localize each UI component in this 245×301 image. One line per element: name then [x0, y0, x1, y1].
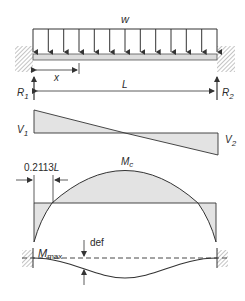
shear-negative-area	[125, 133, 218, 155]
beam	[33, 54, 217, 60]
distributed-load-arrows	[33, 29, 217, 52]
inflection-label: 0.2113L	[24, 162, 59, 173]
shear-right-label: V2	[225, 134, 237, 148]
x-label: x	[53, 72, 60, 83]
right-fixed-support	[217, 46, 235, 72]
moment-baseline	[34, 203, 216, 242]
moment-center-label: Mc	[121, 156, 133, 169]
deflection-right-support	[217, 250, 228, 267]
deflection-left-support	[22, 250, 33, 267]
deflection-curve	[33, 258, 217, 278]
reaction-left-label: R1	[17, 87, 29, 101]
left-fixed-support	[15, 46, 33, 72]
load-label: w	[121, 13, 130, 25]
moment-negative-left	[34, 203, 52, 242]
deflection-diagram: def	[22, 237, 228, 285]
beam-diagram: w x R1 R2 L V1 V2	[0, 0, 245, 301]
span-label: L	[122, 79, 128, 90]
shear-positive-area	[34, 110, 125, 133]
reaction-right-label: R2	[222, 87, 234, 101]
shear-left-label: V1	[17, 124, 28, 138]
moment-negative-right	[198, 203, 216, 242]
shear-diagram: V1 V2	[17, 110, 237, 155]
deflection-label: def	[90, 237, 104, 248]
beam-section: w x R1 R2 L	[15, 13, 235, 101]
moment-diagram: Mc 0.2113L Mmax	[16, 156, 216, 261]
